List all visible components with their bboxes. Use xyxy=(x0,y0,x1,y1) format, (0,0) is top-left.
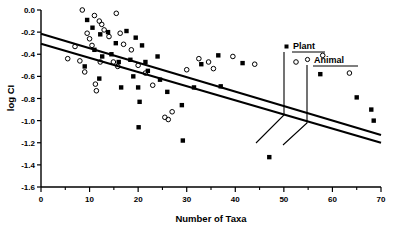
data-point-animal xyxy=(294,60,299,65)
y-tick-label: -1.4 xyxy=(21,161,35,170)
data-point-animal xyxy=(121,42,126,47)
scatter-plot-figure: 0.0-0.2-0.4-0.6-0.8-1.0-1.2-1.4-1.6 0102… xyxy=(0,0,401,236)
data-point-plant xyxy=(117,60,121,64)
data-point-plant xyxy=(140,43,144,47)
data-point-animal xyxy=(206,60,211,65)
data-point-animal xyxy=(129,48,134,53)
y-axis-title: log CI xyxy=(5,85,16,111)
data-point-plant xyxy=(134,35,138,39)
y-tick-label: -0.4 xyxy=(21,50,35,59)
data-point-plant xyxy=(124,29,128,33)
data-point-plant xyxy=(114,41,118,45)
data-point-plant xyxy=(83,64,87,68)
data-point-plant xyxy=(90,26,94,30)
data-series-animal xyxy=(65,8,351,122)
data-point-animal xyxy=(82,70,87,75)
x-tick-label: 50 xyxy=(279,195,288,204)
data-point-animal xyxy=(150,83,155,88)
x-tick-label: 30 xyxy=(182,195,191,204)
data-point-plant xyxy=(165,90,169,94)
y-tick-label: -1.6 xyxy=(21,183,35,192)
x-tick-label: 40 xyxy=(231,195,240,204)
data-point-plant xyxy=(180,103,184,107)
data-point-plant xyxy=(369,107,373,111)
data-point-plant xyxy=(372,118,376,122)
y-tick-label: -0.8 xyxy=(21,95,35,104)
data-point-animal xyxy=(94,88,99,93)
data-point-plant xyxy=(199,62,203,66)
x-tick-label: 60 xyxy=(328,195,337,204)
data-point-animal xyxy=(87,36,92,41)
x-tick-label: 20 xyxy=(134,195,143,204)
y-tick-label: -1.2 xyxy=(21,139,35,148)
data-point-animal xyxy=(184,67,189,72)
data-point-plant xyxy=(146,69,150,73)
data-point-plant xyxy=(97,76,101,80)
data-point-plant xyxy=(85,18,89,22)
legend-leader-lines xyxy=(256,52,307,145)
data-point-animal xyxy=(85,31,90,36)
data-point-plant xyxy=(216,53,220,57)
data-point-animal xyxy=(78,59,83,64)
data-point-plant xyxy=(181,138,185,142)
data-point-plant xyxy=(136,125,140,129)
y-tick-label: -0.6 xyxy=(21,72,35,81)
data-point-animal xyxy=(102,28,107,33)
data-point-animal xyxy=(347,71,352,76)
chart-canvas: 0.0-0.2-0.4-0.6-0.8-1.0-1.2-1.4-1.6 0102… xyxy=(0,0,401,236)
data-point-plant xyxy=(98,32,102,36)
data-point-plant xyxy=(136,85,140,89)
leader-line-animal xyxy=(283,65,307,145)
leader-line-plant xyxy=(256,52,284,143)
x-tick-label: 0 xyxy=(39,195,44,204)
legend-marker-plant-filled-square-icon xyxy=(285,45,289,49)
data-point-animal xyxy=(80,8,85,13)
legend-label-plant: Plant xyxy=(293,41,315,51)
data-point-plant xyxy=(106,30,110,34)
data-point-plant xyxy=(240,61,244,65)
legend-marker-animal-open-circle-icon xyxy=(305,57,309,61)
data-point-animal xyxy=(211,66,216,71)
y-tick-label: -1.0 xyxy=(21,117,35,126)
x-tick-label: 10 xyxy=(85,195,94,204)
legend-label-animal: Animal xyxy=(314,55,344,65)
y-tick-label: -0.2 xyxy=(21,28,35,37)
x-tick-label: 70 xyxy=(377,195,386,204)
data-point-plant xyxy=(137,100,141,104)
data-point-animal xyxy=(197,56,202,61)
data-point-plant xyxy=(318,72,322,76)
data-point-plant xyxy=(355,95,359,99)
data-point-animal xyxy=(65,56,70,61)
data-point-animal xyxy=(99,22,104,27)
data-point-plant xyxy=(267,155,271,159)
data-point-animal xyxy=(92,13,97,18)
regression-line xyxy=(41,34,381,135)
regression-lines xyxy=(41,34,381,143)
data-point-animal xyxy=(93,82,98,87)
y-axis-tick-labels: 0.0-0.2-0.4-0.6-0.8-1.0-1.2-1.4-1.6 xyxy=(21,6,35,192)
data-point-plant xyxy=(119,85,123,89)
data-point-animal xyxy=(90,43,95,48)
data-point-animal xyxy=(166,117,171,122)
data-point-animal xyxy=(231,54,236,59)
data-point-plant xyxy=(100,54,104,58)
data-point-animal xyxy=(107,34,112,39)
data-point-plant xyxy=(155,54,159,58)
data-point-animal xyxy=(114,11,119,16)
data-series-plant xyxy=(83,18,376,160)
data-point-animal xyxy=(252,62,257,67)
y-tick-label: 0.0 xyxy=(24,6,36,15)
axes xyxy=(41,10,381,187)
x-axis-title: Number of Taxa xyxy=(175,213,247,224)
data-point-plant xyxy=(131,74,135,78)
data-point-animal xyxy=(170,109,175,114)
x-axis-tick-labels: 010203040506070 xyxy=(39,195,386,204)
data-point-animal xyxy=(118,31,123,36)
